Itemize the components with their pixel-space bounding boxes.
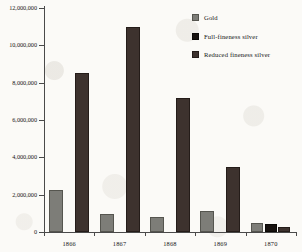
x-axis-tick <box>296 232 297 236</box>
legend-label-gold: Gold <box>204 14 218 21</box>
bar-1866-reduced <box>75 73 89 232</box>
bar-1870-gold <box>251 223 263 232</box>
x-axis-tick <box>94 232 95 236</box>
x-axis-tick-label: 1869 <box>195 240 245 247</box>
x-axis-tick <box>44 232 45 236</box>
x-axis-tick <box>145 232 146 236</box>
y-axis-tick-label: 12,000,000 <box>0 4 37 11</box>
chart-legend: Gold Full-fineness silver Reduced finene… <box>192 14 270 70</box>
legend-label-full-fineness-silver: Full-fineness silver <box>204 33 258 40</box>
bar-1868-reduced <box>176 98 190 232</box>
bar-1870-reduced <box>278 227 290 232</box>
x-axis-tick <box>195 232 196 236</box>
bar-1866-gold <box>49 190 63 232</box>
y-axis-tick-label: 0 <box>0 228 37 235</box>
y-axis-tick-label: 8,000,000 <box>0 79 37 86</box>
x-axis-tick-label: 1866 <box>44 240 94 247</box>
legend-item-full-fineness-silver: Full-fineness silver <box>192 33 270 40</box>
legend-item-gold: Gold <box>192 14 270 21</box>
bar-chart-figure: 02,000,0004,000,0006,000,0008,000,00010,… <box>0 0 302 252</box>
bar-1867-reduced <box>126 27 140 232</box>
y-axis-tick-label: 4,000,000 <box>0 153 37 160</box>
x-axis-tick <box>246 232 247 236</box>
bar-1867-gold <box>100 214 114 232</box>
reduced-fineness-silver-swatch-icon <box>192 51 199 58</box>
y-axis-tick-label: 6,000,000 <box>0 116 37 123</box>
legend-item-reduced-fineness-silver: Reduced fineness silver <box>192 51 270 58</box>
y-axis-tick-label: 10,000,000 <box>0 41 37 48</box>
full-fineness-silver-swatch-icon <box>192 33 199 40</box>
bar-1868-gold <box>150 217 164 232</box>
x-axis-line <box>44 232 296 233</box>
y-axis-tick-label: 2,000,000 <box>0 191 37 198</box>
bar-1870-full <box>265 224 277 232</box>
gold-swatch-icon <box>192 14 199 21</box>
x-axis-tick-label: 1870 <box>246 240 296 247</box>
legend-label-reduced-fineness-silver: Reduced fineness silver <box>204 51 270 58</box>
bar-1869-gold <box>200 211 214 232</box>
x-axis-tick-label: 1868 <box>145 240 195 247</box>
x-axis-tick-label: 1867 <box>94 240 144 247</box>
bar-1869-reduced <box>226 167 240 232</box>
